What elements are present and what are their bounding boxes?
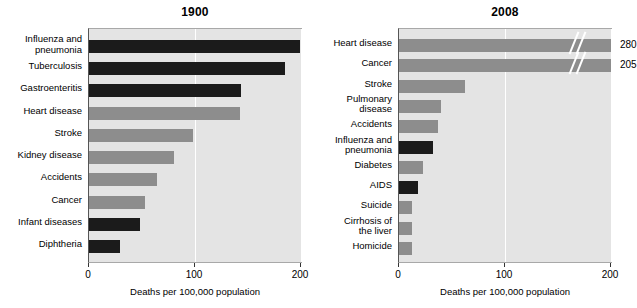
bar: [399, 80, 465, 93]
category-label: Stroke: [0, 128, 82, 139]
bar: [399, 141, 433, 154]
bar: [89, 84, 241, 97]
category-label: Homicide: [282, 241, 392, 252]
bar: [399, 222, 412, 235]
bar: [89, 196, 145, 209]
bar: [89, 218, 140, 231]
x-tick-label: 100: [174, 269, 214, 280]
x-tick: [300, 263, 301, 267]
category-label: Cirrhosis of the liver: [282, 216, 392, 237]
bar: [399, 39, 611, 52]
category-label: Pulmonary disease: [282, 94, 392, 115]
x-tick: [88, 263, 89, 267]
bar: [89, 107, 240, 120]
bar: [89, 151, 174, 164]
category-label: Diphtheria: [0, 239, 82, 250]
bar: [399, 59, 611, 72]
category-label: Influenza and pneumonia: [0, 34, 82, 55]
x-tick-label: 100: [484, 269, 524, 280]
x-tick: [194, 263, 195, 267]
bar: [89, 129, 193, 142]
bar: [399, 201, 412, 214]
category-label: Suicide: [282, 200, 392, 211]
x-tick: [504, 263, 505, 267]
category-label: Diabetes: [282, 160, 392, 171]
bar: [399, 120, 438, 133]
bar: [399, 161, 423, 174]
bar: [89, 40, 300, 53]
category-label: Accidents: [0, 172, 82, 183]
bar-value-label: 280: [620, 39, 637, 50]
x-tick-label: 0: [68, 269, 108, 280]
category-label: Cancer: [282, 58, 392, 69]
x-tick-label: 0: [378, 269, 418, 280]
chart-title-2008: 2008: [398, 5, 612, 19]
category-label: Cancer: [0, 195, 82, 206]
x-axis-title-2008: Deaths per 100,000 population: [398, 286, 612, 297]
x-tick: [610, 263, 611, 267]
bar: [399, 242, 412, 255]
category-label: Heart disease: [282, 38, 392, 49]
plot-area-2008: [398, 28, 612, 263]
plot-area-1900: [88, 28, 302, 263]
category-label: Accidents: [282, 119, 392, 130]
category-label: Heart disease: [0, 106, 82, 117]
bar: [89, 173, 157, 186]
bar-value-label: 205: [620, 59, 637, 70]
x-tick: [398, 263, 399, 267]
category-label: AIDS: [282, 180, 392, 191]
chart-panel-1900: 1900 Influenza and pneumoniaTuberculosis…: [0, 0, 318, 308]
bar-rows-1900: [89, 29, 301, 262]
category-label: Gastroenteritis: [0, 83, 82, 94]
bar-rows-2008: [399, 29, 611, 262]
x-axis-title-1900: Deaths per 100,000 population: [88, 286, 302, 297]
category-label: Stroke: [282, 79, 392, 90]
category-label: Kidney disease: [0, 150, 82, 161]
category-label: Tuberculosis: [0, 61, 82, 72]
gridline-200: [611, 29, 612, 262]
x-tick-label: 200: [590, 269, 630, 280]
bar: [89, 240, 120, 253]
chart-panel-2008: 2008 Heart diseaseCancerStrokePulmonary …: [318, 0, 636, 308]
category-label: Influenza and pneumonia: [282, 135, 392, 156]
chart-title-1900: 1900: [88, 5, 302, 19]
bar: [399, 100, 441, 113]
bar: [89, 62, 285, 75]
x-tick-label: 200: [280, 269, 320, 280]
bar: [399, 181, 418, 194]
category-label: Infant diseases: [0, 217, 82, 228]
